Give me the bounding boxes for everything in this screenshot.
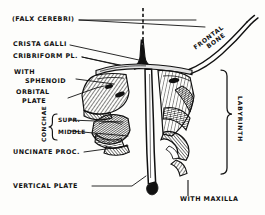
label-with-sphenoid: WITH SPHENOID [14, 68, 66, 85]
label-labyrinth: LABYRINTH [236, 96, 244, 142]
label-crista-galli: CRISTA GALLI [13, 40, 67, 48]
label-with: WITH [14, 68, 35, 76]
label-concha-middle: MIDDLE [58, 128, 86, 136]
label-conchae: CONCHAE [40, 106, 48, 143]
label-sphenoid: SPHENOID [14, 77, 66, 86]
label-vertical-plate: VERTICAL PLATE [13, 182, 78, 190]
label-orbital: ORBITAL [16, 88, 50, 96]
anatomical-figure: (FALX CEREBRI) CRISTA GALLI CRIBRIFORM P… [0, 0, 265, 215]
label-plate: PLATE [16, 97, 50, 106]
label-orbital-plate: ORBITAL PLATE [16, 88, 50, 105]
label-concha-superior: SUPR. [58, 116, 80, 124]
label-falx-cerebri: (FALX CEREBRI) [12, 15, 74, 23]
label-cribriform-plate: CRIBRIFORM PL. [13, 52, 78, 60]
label-with-maxilla: WITH MAXILLA [180, 195, 238, 203]
label-uncinate-process: UNCINATE PROC. [13, 148, 80, 156]
